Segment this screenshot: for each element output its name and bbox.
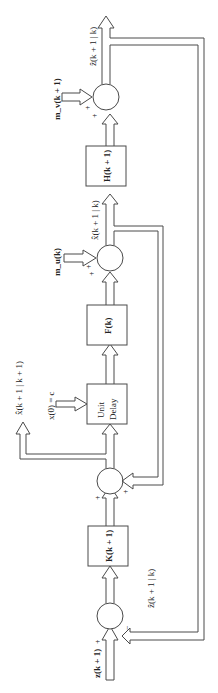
arrow-h-to-s4 (102, 114, 118, 146)
arrow-mu (64, 250, 96, 266)
label-x-pred: x̂(k + 1 | k) (90, 200, 100, 240)
arrow-s2-to-delay-and-output (16, 422, 118, 468)
summer-1 (97, 603, 123, 629)
block-diagram: z(k + 1) + − ẑ(k + 1 | k) K(k + 1) + + x… (0, 0, 218, 693)
block-unit-delay (87, 384, 127, 424)
input-arrow (102, 626, 118, 680)
sign-s2-plus-a: + (93, 495, 102, 500)
label-input: z(k + 1) (92, 649, 102, 678)
label-mv: m_v(k + 1) (52, 78, 62, 120)
arrow-initial-condition (56, 397, 87, 411)
label-z-input: z(k + 1) (92, 649, 102, 678)
label-z-pred-feedback: ẑ(k + 1 | k) (146, 569, 156, 608)
label-x-filtered: x̂(k + 1 | k + 1) (14, 361, 24, 415)
block-delay-label-2: Delay (108, 398, 118, 420)
arrow-delay-to-f (102, 344, 118, 384)
summer-4 (93, 84, 119, 110)
sign-s3-plus-a: + (87, 271, 96, 276)
label-mu: m_u(k) (52, 248, 62, 276)
block-f-label: F(k) (103, 318, 113, 335)
block-delay-label-1: Unit (96, 402, 106, 419)
summer-3 (97, 245, 123, 271)
arrow-mv (62, 89, 92, 105)
sign-s3-plus-b: + (84, 264, 93, 269)
arrow-f-to-s3 (102, 272, 118, 305)
block-k-label: K(k + 1) (104, 530, 114, 562)
label-initial-condition: x(0) = c (46, 391, 56, 420)
label-z-pred-out: ẑ(k + 1 | k) (88, 27, 98, 66)
sign-s4-plus-a: + (90, 113, 99, 118)
sign-s1-plus: + (93, 639, 102, 644)
sign-s2-plus-b: + (121, 489, 130, 494)
sign-s1-minus: − (123, 625, 132, 630)
sign-s4-plus-b: + (83, 105, 92, 110)
block-h-label: H(k + 1) (102, 150, 112, 182)
summer-2 (97, 468, 123, 494)
arrow-s1-to-k (102, 566, 118, 603)
